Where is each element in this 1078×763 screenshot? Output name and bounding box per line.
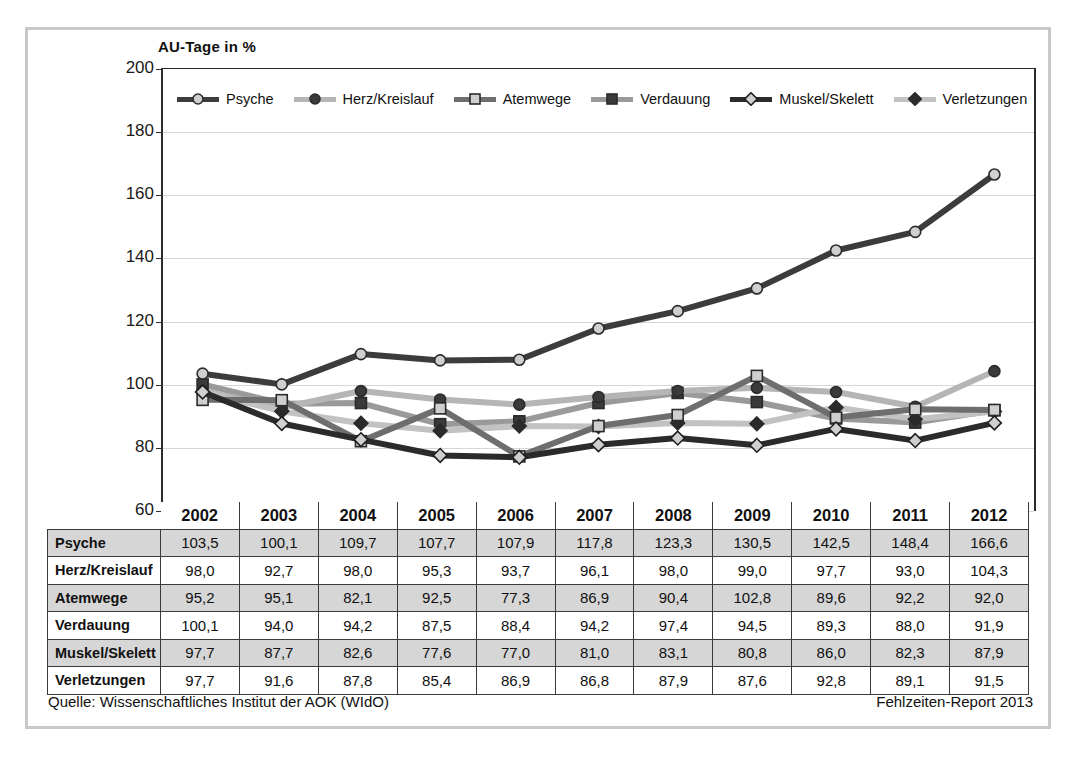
table-header-row: 2002200320042005200620072008200920102011… xyxy=(48,502,1029,529)
table-year-header: 2011 xyxy=(871,502,950,529)
legend-item-muskel-skelett[interactable]: Muskel/Skelett xyxy=(730,91,873,107)
data-point xyxy=(514,354,525,365)
legend-label: Atemwege xyxy=(503,91,572,107)
table-row-label: Muskel/Skelett xyxy=(48,639,161,667)
legend-marker-icon xyxy=(177,92,219,106)
legend-symbol-square-icon xyxy=(605,92,619,106)
table-cell: 107,9 xyxy=(476,529,555,557)
table-year-header: 2002 xyxy=(161,502,240,529)
table-year-header: 2006 xyxy=(476,502,555,529)
table-cell: 85,4 xyxy=(397,667,476,695)
table-cell: 89,6 xyxy=(792,584,871,612)
table-cell: 99,0 xyxy=(713,557,792,585)
table-cell: 98,0 xyxy=(634,557,713,585)
table-row: Verletzungen97,791,687,885,486,986,887,9… xyxy=(48,667,1029,695)
table-row-label: Psyche xyxy=(48,529,161,557)
table-year-header: 2010 xyxy=(792,502,871,529)
legend-item-psyche[interactable]: Psyche xyxy=(177,91,274,107)
table-cell: 89,1 xyxy=(871,667,950,695)
data-point xyxy=(276,395,287,406)
data-point xyxy=(751,397,762,408)
data-point xyxy=(672,386,683,397)
plot-area: 6080100120140160180200 PsycheHerz/Kreisl… xyxy=(161,68,1036,511)
data-point xyxy=(593,392,604,403)
table-cell: 94,2 xyxy=(318,612,397,640)
table-row: Verdauung100,194,094,287,588,494,297,494… xyxy=(48,612,1029,640)
legend-symbol-diamond-icon xyxy=(744,92,758,106)
data-point xyxy=(910,226,921,237)
table-cell: 98,0 xyxy=(318,557,397,585)
table-cell: 96,1 xyxy=(555,557,634,585)
table-year-header: 2004 xyxy=(318,502,397,529)
table-cell: 91,9 xyxy=(950,612,1029,640)
legend-item-atemwege[interactable]: Atemwege xyxy=(454,91,572,107)
data-point xyxy=(751,370,762,381)
series-psyche xyxy=(197,169,1000,390)
table-cell: 166,6 xyxy=(950,529,1029,557)
data-point xyxy=(671,431,685,445)
data-point xyxy=(672,410,683,421)
y-axis-tick-label: 200 xyxy=(126,58,154,78)
table-cell: 97,7 xyxy=(161,639,240,667)
table-year-header: 2005 xyxy=(397,502,476,529)
tick-mark xyxy=(156,69,163,70)
table-cell: 82,1 xyxy=(318,584,397,612)
table-row-label: Verletzungen xyxy=(48,667,161,695)
table-cell: 77,6 xyxy=(397,639,476,667)
tick-mark xyxy=(156,132,163,133)
data-table: 2002200320042005200620072008200920102011… xyxy=(47,502,1029,695)
data-point xyxy=(592,438,606,452)
table-cell: 77,0 xyxy=(476,639,555,667)
table-cell: 92,0 xyxy=(950,584,1029,612)
table-cell: 104,3 xyxy=(950,557,1029,585)
table-cell: 82,3 xyxy=(871,639,950,667)
table-row: Atemwege95,295,182,192,577,386,990,4102,… xyxy=(48,584,1029,612)
data-point xyxy=(751,283,762,294)
figure-frame: AU-Tage in % 6080100120140160180200 Psyc… xyxy=(25,27,1051,729)
table-row: Muskel/Skelett97,787,782,677,677,081,083… xyxy=(48,639,1029,667)
figure-footer: Quelle: Wissenschaftliches Institut der … xyxy=(48,693,1033,710)
table-year-header: 2012 xyxy=(950,502,1029,529)
y-axis-tick-label: 160 xyxy=(126,184,154,204)
table-cell: 100,1 xyxy=(239,529,318,557)
table-cell: 88,4 xyxy=(476,612,555,640)
table-cell: 94,2 xyxy=(555,612,634,640)
table-cell: 86,9 xyxy=(555,584,634,612)
legend-marker-icon xyxy=(591,92,633,106)
table-cell: 95,2 xyxy=(161,584,240,612)
table-cell: 95,3 xyxy=(397,557,476,585)
data-point xyxy=(831,245,842,256)
table-cell: 89,3 xyxy=(792,612,871,640)
table-row: Herz/Kreislauf98,092,798,095,393,796,198… xyxy=(48,557,1029,585)
legend-item-verdauung[interactable]: Verdauung xyxy=(591,91,710,107)
legend-item-herz-kreislauf[interactable]: Herz/Kreislauf xyxy=(294,91,434,107)
table-cell: 87,6 xyxy=(713,667,792,695)
data-point xyxy=(989,366,1000,377)
tick-mark xyxy=(156,258,163,259)
chart-axis-title: AU-Tage in % xyxy=(158,38,256,55)
legend-label: Muskel/Skelett xyxy=(779,91,873,107)
table-cell: 87,5 xyxy=(397,612,476,640)
table-cell: 148,4 xyxy=(871,529,950,557)
data-point xyxy=(988,416,1002,430)
table-cell: 95,1 xyxy=(239,584,318,612)
table-cell: 86,8 xyxy=(555,667,634,695)
table-row-label: Herz/Kreislauf xyxy=(48,557,161,585)
table-cell: 91,6 xyxy=(239,667,318,695)
table-cell: 97,4 xyxy=(634,612,713,640)
table-year-header: 2007 xyxy=(555,502,634,529)
data-point xyxy=(750,438,764,452)
legend-item-verletzungen[interactable]: Verletzungen xyxy=(894,91,1028,107)
data-point xyxy=(751,382,762,393)
table-cell: 92,5 xyxy=(397,584,476,612)
line-chart: AU-Tage in % 6080100120140160180200 Psyc… xyxy=(28,30,1048,520)
table-row: Psyche103,5100,1109,7107,7107,9117,8123,… xyxy=(48,529,1029,557)
data-point xyxy=(831,386,842,397)
table-cell: 93,0 xyxy=(871,557,950,585)
data-point xyxy=(593,421,604,432)
table-cell: 92,2 xyxy=(871,584,950,612)
table-cell: 97,7 xyxy=(161,667,240,695)
table-row-label: Verdauung xyxy=(48,612,161,640)
table-cell: 130,5 xyxy=(713,529,792,557)
report-note: Fehlzeiten-Report 2013 xyxy=(876,693,1033,710)
